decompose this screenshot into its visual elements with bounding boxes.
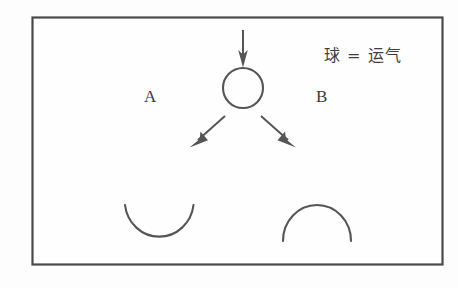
branch-label-b: B xyxy=(316,88,327,105)
diagram-canvas: A B 球 = 运气 xyxy=(0,0,458,288)
branch-label-a: A xyxy=(144,88,156,105)
legend-annotation: 球 = 运气 xyxy=(324,48,402,64)
diagram-drawing xyxy=(0,0,458,288)
